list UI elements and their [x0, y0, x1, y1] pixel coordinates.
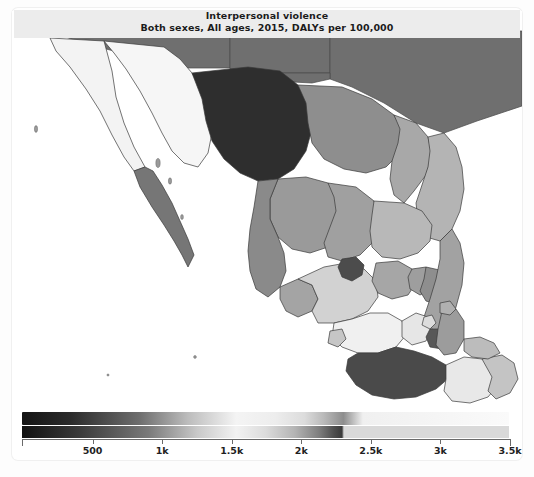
colorbar-tick-label: 3.5k	[498, 445, 521, 456]
us-state-region	[230, 31, 330, 73]
colorbar-tick-label: 2k	[295, 445, 308, 456]
island	[168, 178, 171, 184]
choropleth-map-figure	[12, 11, 522, 406]
colorbar-tick	[371, 440, 372, 444]
colorbar-tick-label: 1.5k	[220, 445, 243, 456]
colorbar-axis: 5001k1.5k2k2.5k3k3.5k	[22, 439, 511, 446]
colorbar-tick	[162, 440, 163, 444]
colorbar-tick	[232, 440, 233, 444]
island	[194, 356, 197, 359]
island	[107, 374, 109, 376]
colorbar-distribution-strip	[22, 412, 509, 425]
colorbar-tick-label: 1k	[156, 445, 169, 456]
colorbar-tick-label: 2.5k	[359, 445, 382, 456]
colorbar-legend: 5001k1.5k2k2.5k3k3.5k	[22, 412, 509, 456]
colorbar-tick	[510, 440, 511, 444]
figure-title-block: Interpersonal violence Both sexes, All a…	[0, 10, 534, 33]
island	[34, 126, 37, 133]
colorbar-tick	[93, 440, 94, 444]
island	[181, 214, 184, 219]
colorbar-tick-label: 500	[83, 445, 103, 456]
colorbar-tick	[440, 440, 441, 444]
map-canvas	[12, 11, 522, 406]
figure-subtitle: Both sexes, All ages, 2015, DALYs per 10…	[0, 22, 534, 34]
figure-title: Interpersonal violence	[0, 10, 534, 22]
colorbar-gradient	[22, 426, 509, 438]
colorbar-tick	[301, 440, 302, 444]
colorbar-tick-label: 3k	[434, 445, 447, 456]
island	[156, 159, 160, 168]
